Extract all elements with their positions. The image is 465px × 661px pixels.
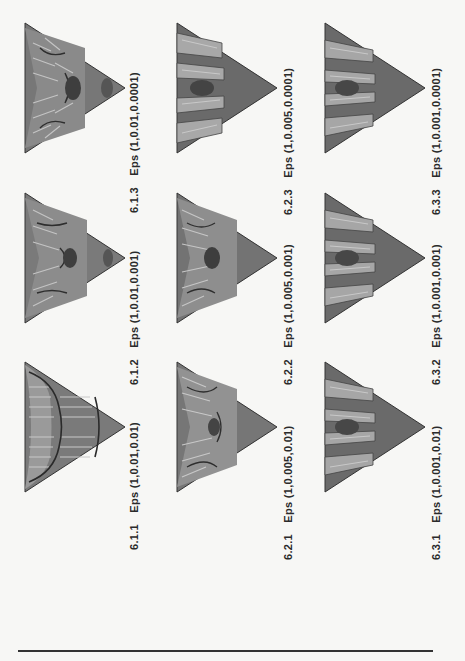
panel-label: Eps: [282, 327, 294, 348]
panel-id: 6.1.2: [128, 359, 140, 385]
caption-6-2-1: 6.2.1 Eps (1,0.005,0.01): [282, 426, 294, 560]
panel-params: (1,0.005,0.01): [282, 426, 294, 499]
panel-params: (1,0.005,0.001): [282, 244, 294, 323]
caption-6-3-3: 6.3.3 Eps (1,0.001,0.0001): [430, 68, 442, 215]
panel-id: 6.1.3: [128, 187, 140, 213]
surface-plot-6-1-3: [15, 18, 125, 158]
panel-label: Eps: [128, 155, 140, 176]
caption-6-1-2: 6.1.2 Eps (1,0.01,0.001): [128, 251, 140, 385]
panel-label: Eps: [128, 327, 140, 348]
surface-plot-6-1-1: [15, 357, 125, 497]
surface-plot-6-2-2: [162, 188, 277, 328]
page-rule-divider: [18, 650, 433, 652]
surface-plot-6-1-2: [15, 188, 125, 328]
panel-label: Eps: [128, 492, 140, 513]
panel-label: Eps: [430, 157, 442, 178]
panel-id: 6.3.3: [430, 189, 442, 215]
caption-6-1-3: 6.1.3 Eps (1,0.01,0.0001): [128, 72, 140, 213]
surface-plot-6-2-3: [162, 18, 277, 158]
panel-id: 6.3.1: [430, 534, 442, 560]
panel-label: Eps: [430, 502, 442, 523]
caption-6-2-3: 6.2.3 Eps (1,0.005,0.0001): [282, 68, 294, 215]
panel-id: 6.2.2: [282, 359, 294, 385]
surface-plot-6-3-2: [305, 188, 425, 328]
panel-label: Eps: [282, 157, 294, 178]
panel-id: 6.2.1: [282, 534, 294, 560]
panel-id: 6.3.2: [430, 359, 442, 385]
panel-params: (1,0.001,0.0001): [430, 68, 442, 154]
panel-params: (1,0.01,0.001): [128, 251, 140, 324]
panel-params: (1,0.005,0.0001): [282, 68, 294, 154]
panel-id: 6.2.3: [282, 189, 294, 215]
surface-plot-6-2-1: [162, 357, 277, 497]
panel-params: (1,0.01,0.0001): [128, 72, 140, 151]
panel-params: (1,0.01,0.01): [128, 422, 140, 488]
panel-id: 6.1.1: [128, 524, 140, 550]
panel-label: Eps: [282, 502, 294, 523]
surface-plot-6-3-3: [305, 18, 425, 158]
caption-6-1-1: 6.1.1 Eps (1,0.01,0.01): [128, 422, 140, 550]
caption-6-2-2: 6.2.2 Eps (1,0.005,0.001): [282, 244, 294, 385]
panel-params: (1,0.001,0.001): [430, 244, 442, 323]
surface-plot-6-3-1: [305, 357, 425, 497]
panel-params: (1,0.001,0.01): [430, 426, 442, 499]
caption-6-3-2: 6.3.2 Eps (1,0.001,0.001): [430, 244, 442, 385]
caption-6-3-1: 6.3.1 Eps (1,0.001,0.01): [430, 426, 442, 560]
panel-label: Eps: [430, 327, 442, 348]
